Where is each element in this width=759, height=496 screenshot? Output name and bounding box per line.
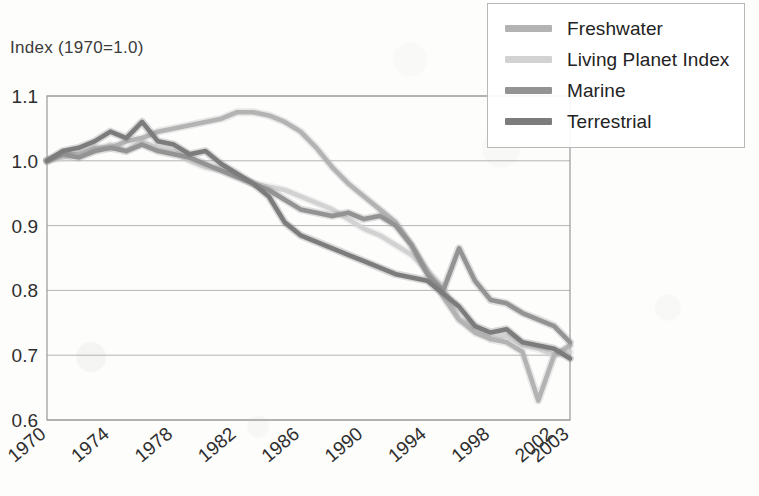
legend-swatch-terrestrial — [505, 118, 552, 125]
series-line-halo — [47, 141, 570, 355]
legend-swatch-freshwater — [505, 25, 552, 32]
legend-label-terrestrial: Terrestrial — [567, 111, 652, 133]
x-axis-tick-label: 1998 — [447, 423, 493, 466]
y-axis-tick-label: 0.9 — [12, 216, 38, 237]
series-line — [47, 122, 570, 359]
legend-label-freshwater: Freshwater — [567, 18, 663, 40]
legend-item-freshwater[interactable]: Freshwater — [498, 13, 734, 44]
chart-page: Index (1970=1.0) 0.60.70.80.91.01.119701… — [0, 0, 759, 496]
series-line — [47, 141, 570, 355]
series-line — [47, 112, 570, 400]
legend-label-marine: Marine — [567, 80, 626, 102]
legend-item-marine[interactable]: Marine — [498, 75, 734, 106]
chart-legend: Freshwater Living Planet Index Marine Te… — [487, 3, 745, 148]
series-line-halo — [47, 112, 570, 400]
legend-label-living-planet-index: Living Planet Index — [567, 49, 729, 71]
y-axis-tick-label: 0.8 — [12, 280, 38, 301]
x-axis-tick-label: 1990 — [321, 423, 367, 466]
series-line — [47, 145, 570, 343]
x-axis-tick-label: 1982 — [194, 423, 240, 466]
legend-swatch-marine — [505, 87, 552, 94]
x-axis-tick-label: 1978 — [130, 423, 176, 466]
series-line-halo — [47, 145, 570, 343]
x-axis-tick-label: 1974 — [67, 423, 113, 467]
legend-swatch-living-planet-index — [505, 56, 552, 63]
legend-item-living-planet-index[interactable]: Living Planet Index — [498, 44, 734, 75]
y-axis-tick-label: 0.7 — [12, 345, 38, 366]
x-axis-tick-label: 1986 — [257, 423, 303, 466]
x-axis-tick-label: 2003 — [527, 423, 573, 466]
y-axis-tick-label: 1.0 — [12, 151, 38, 172]
y-axis-tick-label: 1.1 — [12, 86, 38, 107]
legend-item-terrestrial[interactable]: Terrestrial — [498, 106, 734, 137]
x-axis-tick-label: 1994 — [384, 423, 430, 467]
